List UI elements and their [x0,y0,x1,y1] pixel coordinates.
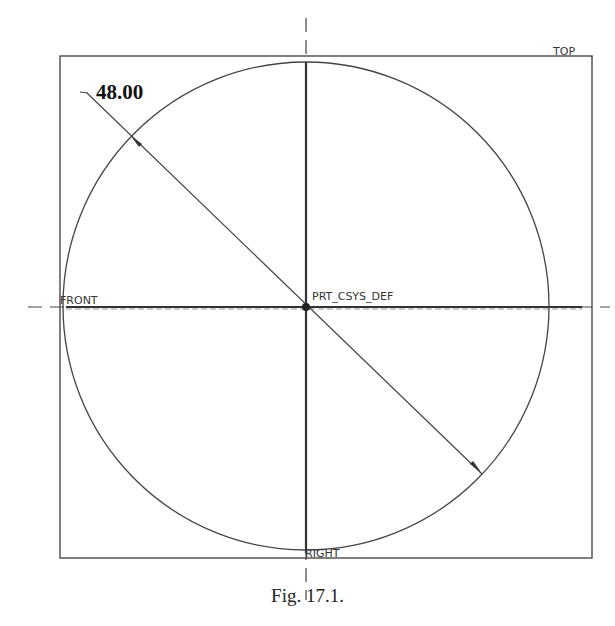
datum-label-top: TOP [552,45,575,58]
sketch-canvas: 48.00 TOP FRONT PRT_CSYS_DEF RIGHT [0,0,615,626]
figure-caption: Fig. 17.1. [0,585,615,607]
csys-label: PRT_CSYS_DEF [312,290,393,303]
dimension-arrow-icon [470,461,481,472]
dimension-arrow-icon [131,136,142,147]
csys-origin-point [302,303,310,311]
diameter-dimension: 48.00 [96,80,143,104]
datum-label-right: RIGHT [305,547,340,560]
diameter-dimension-line [87,93,482,474]
datum-label-front: FRONT [60,294,98,307]
